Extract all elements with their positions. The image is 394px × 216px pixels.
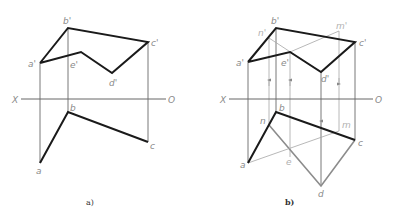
label-b-prime: b' [63, 16, 71, 26]
label-c-prime: c' [151, 38, 158, 48]
label-n: n [260, 116, 266, 126]
label-b: b [70, 103, 76, 113]
orthographic-projection-figure: b' a' e' d' c' X O b a c a) b' n' m' a' … [0, 0, 394, 216]
label-n-prime: n' [258, 28, 266, 38]
label-m: m [342, 120, 351, 130]
label-a: a [240, 160, 246, 170]
label-c-prime: c' [359, 38, 366, 48]
aux-line-a-m [248, 131, 339, 163]
top-view-constructed-n-d-c [269, 125, 355, 186]
label-m-prime: m' [336, 21, 347, 31]
label-a: a [36, 166, 42, 176]
panel-a [21, 28, 166, 163]
caption-b: b) [285, 197, 295, 207]
axis-label-o: O [375, 95, 382, 105]
label-c: c [358, 138, 363, 148]
panel-b [229, 28, 373, 186]
axis-label-x: X [11, 95, 19, 105]
label-d: d [318, 189, 324, 199]
caption-a: a) [86, 198, 94, 207]
label-d-prime: d' [109, 78, 117, 88]
front-view-polygon [40, 28, 148, 73]
label-b: b [279, 103, 285, 113]
label-a-prime: a' [28, 59, 36, 69]
label-e: e [286, 157, 292, 167]
label-e-prime: e' [70, 60, 78, 70]
axis-label-x: X [219, 95, 227, 105]
label-e-prime: e' [281, 58, 289, 68]
top-view-polyline [40, 112, 148, 163]
label-c: c [150, 141, 155, 151]
label-b-prime: b' [271, 16, 279, 26]
label-a-prime: a' [236, 58, 244, 68]
label-d-prime: d' [321, 74, 329, 84]
axis-label-o: O [168, 95, 175, 105]
